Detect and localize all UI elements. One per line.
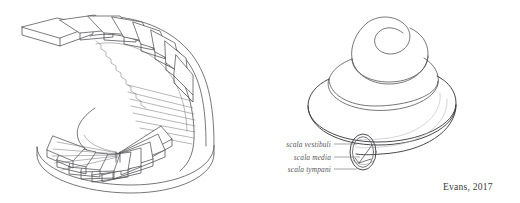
staircase-lower-treads bbox=[47, 126, 172, 182]
figure-credit: Evans, 2017 bbox=[443, 181, 493, 192]
label-scala-tympani: scala tympani bbox=[288, 165, 331, 174]
cochlea-labels: scala vestibuli scala media scala tympan… bbox=[286, 140, 331, 174]
label-scala-vestibuli: scala vestibuli bbox=[286, 140, 331, 149]
staircase-inner-riser-notches bbox=[96, 41, 146, 108]
cochlea-apex-spiral bbox=[367, 17, 410, 54]
cochlea-leader-lines bbox=[334, 144, 360, 169]
illustration-canvas: scala vestibuli scala media scala tympan… bbox=[0, 0, 520, 203]
cochlea-middle-turn bbox=[328, 58, 438, 110]
figure-root: scala vestibuli scala media scala tympan… bbox=[0, 0, 520, 203]
label-scala-media: scala media bbox=[294, 153, 331, 162]
cochlea-illustration: scala vestibuli scala media scala tympan… bbox=[286, 17, 456, 174]
cochlea-basal-skirt bbox=[356, 93, 456, 155]
staircase-upper-treads bbox=[22, 15, 193, 102]
spiral-staircase-illustration bbox=[22, 15, 214, 193]
cochlea-upper-turn bbox=[352, 23, 428, 84]
